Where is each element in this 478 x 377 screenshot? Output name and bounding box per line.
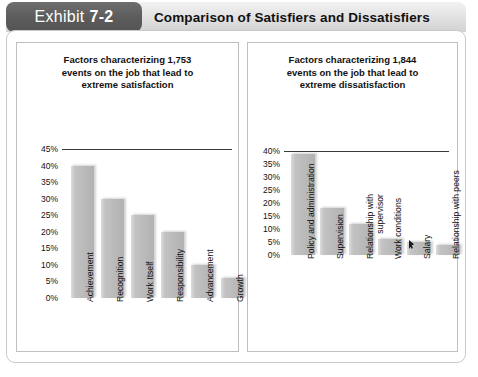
- exhibit-number-tag: Exhibit7-2: [6, 2, 142, 32]
- chart-panel-dissatisfiers: Factors characterizing 1,844events on th…: [247, 42, 458, 352]
- x-axis-label: Supervision: [336, 214, 346, 259]
- x-axis-label: Policy and administration: [307, 163, 317, 259]
- exhibit-title: Comparison of Satisfiers and Dissatisfie…: [154, 2, 460, 32]
- x-axis-line: [62, 149, 232, 150]
- chart-title-dissatisfiers: Factors characterizing 1,844events on th…: [256, 54, 449, 92]
- plot-area-dissatisfiers: 40%35%30%25%20%15%10%5%0%Policy and admi…: [284, 151, 449, 255]
- y-axis-tick: 35%: [263, 160, 280, 169]
- exhibit-frame: Factors characterizing 1,753events on th…: [6, 30, 466, 363]
- y-axis-tick: 5%: [46, 277, 58, 286]
- y-axis-tick: 30%: [41, 194, 58, 203]
- y-axis-tick: 15%: [41, 244, 58, 253]
- y-axis-tick: 25%: [263, 186, 280, 195]
- y-axis-tick: 40%: [41, 161, 58, 170]
- y-axis-tick: 35%: [41, 178, 58, 187]
- exhibit-header-bar: Exhibit7-2 Comparison of Satisfiers and …: [6, 2, 466, 32]
- x-axis-label: Achievement: [86, 252, 96, 302]
- x-axis-label: Recognition: [116, 257, 126, 302]
- exhibit-label: Exhibit: [34, 8, 84, 26]
- x-axis-label: Work conditions: [394, 198, 404, 259]
- y-axis-tick: 10%: [41, 261, 58, 270]
- x-axis-line: [284, 151, 449, 152]
- exhibit-number: 7-2: [90, 8, 114, 26]
- x-axis-label: Advancement: [206, 249, 216, 302]
- y-axis-tick: 10%: [263, 225, 280, 234]
- y-axis-tick: 0%: [268, 251, 280, 260]
- y-axis-tick: 30%: [263, 173, 280, 182]
- chart-panel-satisfiers: Factors characterizing 1,753events on th…: [16, 42, 239, 352]
- y-axis-tick: 20%: [41, 228, 58, 237]
- y-axis-tick: 25%: [41, 211, 58, 220]
- x-axis-label: Work Itself: [146, 262, 156, 302]
- y-axis-tick: 20%: [263, 199, 280, 208]
- x-axis-label: Responsibility: [176, 249, 186, 302]
- plot-area-satisfiers: 45%40%35%30%25%20%15%10%5%0%AchievementR…: [62, 149, 232, 298]
- y-axis-tick: 5%: [268, 238, 280, 247]
- chart-title-satisfiers: Factors characterizing 1,753events on th…: [25, 54, 230, 92]
- y-axis-tick: 15%: [263, 212, 280, 221]
- y-axis-tick: 45%: [41, 145, 58, 154]
- y-axis-tick: 40%: [263, 147, 280, 156]
- x-axis-label: Salary: [423, 235, 433, 259]
- x-axis-label: Growth: [236, 274, 246, 302]
- x-axis-label: Relationship with peers: [452, 170, 462, 259]
- y-axis-tick: 0%: [46, 294, 58, 303]
